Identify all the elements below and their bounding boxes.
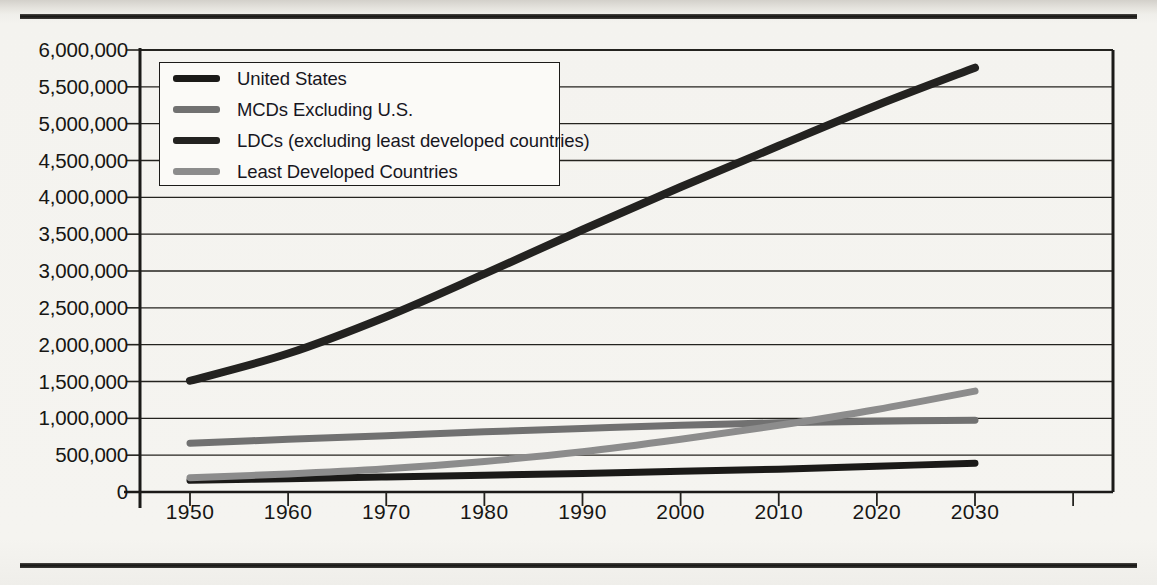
- y-axis-tick-label: 4,000,000: [4, 185, 128, 209]
- legend-swatch-icon: [173, 75, 220, 82]
- x-axis-tick-label: 1990: [538, 500, 628, 524]
- x-axis-tick-label: 1980: [439, 500, 529, 524]
- legend-label: United States: [237, 68, 347, 90]
- legend-label: LDCs (excluding least developed countrie…: [237, 130, 590, 152]
- x-axis-tick-label: 2010: [734, 500, 824, 524]
- x-axis-tick-label: 2000: [636, 500, 726, 524]
- y-axis-tick-label: 0: [4, 480, 128, 504]
- legend-swatch-icon: [173, 168, 220, 175]
- y-axis-tick-label: 3,000,000: [4, 259, 128, 283]
- x-axis-tick-label: 1970: [341, 500, 431, 524]
- y-axis-tick-label: 500,000: [4, 443, 128, 467]
- x-axis-tick-label: 2020: [832, 500, 922, 524]
- x-axis-tick-label: 2030: [930, 500, 1020, 524]
- x-axis-tick-label: 1950: [145, 500, 235, 524]
- y-axis-tick-label: 5,000,000: [4, 112, 128, 136]
- y-axis-tick-label: 5,500,000: [4, 75, 128, 99]
- legend-item-0: United States: [160, 63, 559, 94]
- chart-legend: United StatesMCDs Excluding U.S.LDCs (ex…: [159, 62, 560, 186]
- x-axis-tick-label: 1960: [243, 500, 333, 524]
- population-projection-line-chart: 0500,0001,000,0001,500,0002,000,0002,500…: [0, 0, 1157, 585]
- legend-swatch-icon: [173, 106, 220, 113]
- legend-item-1: MCDs Excluding U.S.: [160, 94, 559, 125]
- legend-item-2: LDCs (excluding least developed countrie…: [160, 125, 559, 156]
- y-axis-tick-label: 6,000,000: [4, 38, 128, 62]
- legend-swatch-icon: [173, 137, 220, 144]
- legend-label: MCDs Excluding U.S.: [237, 99, 413, 121]
- y-axis-tick-label: 1,000,000: [4, 406, 128, 430]
- legend-item-3: Least Developed Countries: [160, 156, 559, 187]
- y-axis-tick-label: 3,500,000: [4, 222, 128, 246]
- legend-label: Least Developed Countries: [237, 161, 458, 183]
- y-axis-tick-label: 4,500,000: [4, 149, 128, 173]
- series-line-1: [190, 420, 975, 443]
- y-axis-tick-label: 2,000,000: [4, 333, 128, 357]
- y-axis-tick-label: 2,500,000: [4, 296, 128, 320]
- y-axis-tick-label: 1,500,000: [4, 370, 128, 394]
